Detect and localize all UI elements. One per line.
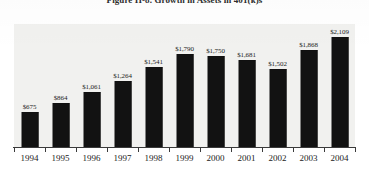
category-label-1999: 1999 <box>176 153 194 163</box>
bar-1996: $1,061 <box>76 24 107 148</box>
bar-rect <box>331 37 348 148</box>
category-label-1995: 1995 <box>52 153 70 163</box>
bar-2004: $2,109 <box>324 24 355 148</box>
axis-tick <box>262 148 263 152</box>
bar-rect <box>269 69 286 148</box>
bar-1994: $675 <box>14 24 45 148</box>
axis-tick <box>169 148 170 152</box>
axis-tick <box>293 148 294 152</box>
category-label-2004: 2004 <box>331 153 349 163</box>
bar-rect <box>145 67 162 148</box>
axis-tick <box>355 148 356 152</box>
category-label-2003: 2003 <box>300 153 318 163</box>
bar-value-label: $1,264 <box>113 72 132 80</box>
bar-value-label: $675 <box>23 103 37 111</box>
category-label-2002: 2002 <box>269 153 287 163</box>
bar-rect <box>176 54 193 148</box>
axis-tick <box>231 148 232 152</box>
bar-rect <box>114 81 131 148</box>
bar-value-label: $1,541 <box>144 58 163 66</box>
bar-rect <box>21 112 38 148</box>
bar-1997: $1,264 <box>107 24 138 148</box>
bar-rect <box>52 103 69 148</box>
bar-value-label: $1,061 <box>82 83 101 91</box>
axis-tick <box>324 148 325 152</box>
chart-screenshot: Figure II-8. Growth in Assets in 401(k)s… <box>0 0 369 176</box>
bar-rect <box>83 92 100 148</box>
bar-2001: $1,681 <box>231 24 262 148</box>
bar-1995: $864 <box>45 24 76 148</box>
bar-value-label: $1,750 <box>206 47 225 55</box>
category-label-1997: 1997 <box>114 153 132 163</box>
bar-value-label: $1,868 <box>299 41 318 49</box>
bar-1999: $1,790 <box>169 24 200 148</box>
bar-value-label: $1,502 <box>268 60 287 68</box>
bar-rect <box>207 56 224 148</box>
category-label-1998: 1998 <box>145 153 163 163</box>
axis-tick <box>14 148 15 152</box>
category-label-2000: 2000 <box>207 153 225 163</box>
bar-rect <box>300 50 317 148</box>
category-label-2001: 2001 <box>238 153 256 163</box>
axis-tick <box>45 148 46 152</box>
bar-2000: $1,750 <box>200 24 231 148</box>
bar-value-label: $864 <box>54 94 68 102</box>
category-axis-labels: 1994199519961997199819992000200120022003… <box>14 153 355 169</box>
axis-tick <box>200 148 201 152</box>
bar-value-label: $2,109 <box>330 28 349 36</box>
bar-1998: $1,541 <box>138 24 169 148</box>
chart-title: Figure II-8. Growth in Assets in 401(k)s <box>0 0 369 5</box>
axis-tick <box>138 148 139 152</box>
axis-tick <box>76 148 77 152</box>
bar-rect <box>238 60 255 148</box>
bar-2002: $1,502 <box>262 24 293 148</box>
bar-value-label: $1,681 <box>237 51 256 59</box>
bar-2003: $1,868 <box>293 24 324 148</box>
category-axis-line <box>13 147 356 148</box>
bar-value-label: $1,790 <box>175 45 194 53</box>
category-label-1994: 1994 <box>21 153 39 163</box>
category-label-1996: 1996 <box>83 153 101 163</box>
axis-tick <box>107 148 108 152</box>
bars-layer: $675$864$1,061$1,264$1,541$1,790$1,750$1… <box>14 24 355 148</box>
